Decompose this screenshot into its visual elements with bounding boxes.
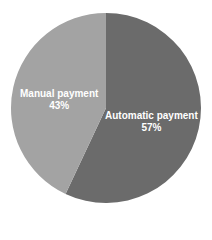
slice-name-automatic: Automatic payment (105, 110, 198, 122)
slice-label-manual: Manual payment 43% (20, 88, 98, 112)
slice-pct-manual: 43% (20, 100, 98, 112)
slice-label-automatic: Automatic payment 57% (105, 110, 198, 134)
slice-pct-automatic: 57% (105, 122, 198, 134)
slice-name-manual: Manual payment (20, 88, 98, 100)
